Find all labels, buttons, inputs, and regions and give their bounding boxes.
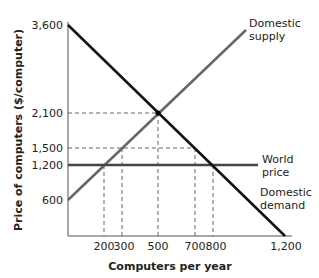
x-ticks: 200 300 500 700 800 1,200: [94, 240, 302, 253]
svg-text:800: 800: [206, 240, 227, 253]
svg-text:1,200: 1,200: [270, 240, 302, 253]
svg-text:200: 200: [94, 240, 115, 253]
svg-text:1,200: 1,200: [32, 159, 64, 172]
world-label-1: World: [262, 153, 294, 166]
demand-label-2: demand: [260, 199, 305, 212]
y-ticks: 3,600 2,100 1,500 1,200 600: [32, 19, 64, 207]
supply-label-1: Domestic: [249, 17, 301, 30]
svg-text:600: 600: [42, 194, 63, 207]
world-label-2: price: [262, 166, 290, 179]
svg-text:3,600: 3,600: [32, 19, 64, 32]
demand-label-1: Domestic: [260, 186, 312, 199]
svg-text:300: 300: [114, 240, 135, 253]
svg-text:700: 700: [185, 240, 206, 253]
svg-text:2,100: 2,100: [32, 107, 64, 120]
equilibrium-point: [156, 111, 161, 116]
y-axis-title: Price of computers ($/computer): [12, 29, 25, 231]
svg-text:500: 500: [148, 240, 169, 253]
demand-line: [68, 25, 285, 236]
svg-text:1,500: 1,500: [32, 142, 64, 155]
x-axis-title: Computers per year: [108, 260, 232, 273]
chart: 3,600 2,100 1,500 1,200 600 200 300 500 …: [0, 0, 319, 278]
supply-label-2: supply: [249, 30, 286, 43]
